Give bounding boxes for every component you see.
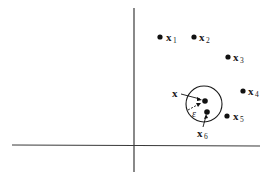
svg-text:x: x [172, 87, 178, 99]
point-x4: x4 [240, 85, 259, 99]
point-x6: x6 [197, 109, 210, 141]
svg-text:x: x [197, 127, 203, 139]
diagram-canvas: x1 x2 x3 x4 x5 x x6 ε [0, 0, 271, 184]
svg-text:x: x [199, 31, 205, 43]
x-axis [12, 145, 260, 146]
svg-text:x: x [248, 85, 254, 97]
point-x2: x2 [191, 31, 210, 45]
svg-text:5: 5 [240, 115, 244, 124]
svg-text:1: 1 [173, 36, 177, 45]
svg-text:x: x [233, 51, 239, 63]
svg-text:6: 6 [204, 132, 208, 141]
svg-text:4: 4 [255, 90, 259, 99]
svg-text:ε: ε [192, 108, 196, 119]
epsilon-radius: ε [188, 103, 201, 119]
point-x3: x3 [225, 51, 244, 65]
svg-text:3: 3 [240, 56, 244, 65]
point-x5: x5 [224, 110, 244, 124]
query-point: x [172, 87, 208, 104]
point-x1: x1 [157, 31, 177, 45]
svg-text:2: 2 [206, 36, 210, 45]
svg-text:x: x [233, 110, 239, 122]
svg-text:x: x [166, 31, 172, 43]
